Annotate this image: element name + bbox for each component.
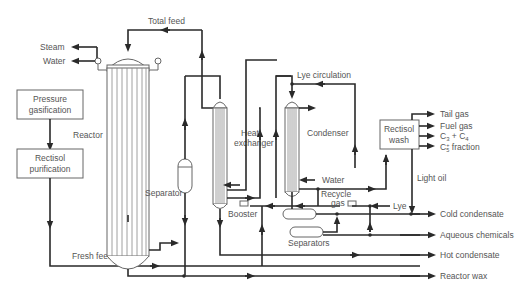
water-label: Water xyxy=(43,56,66,66)
heat-exchanger xyxy=(213,102,227,209)
svg-text:purification: purification xyxy=(29,164,70,174)
svg-text:gasification: gasification xyxy=(29,105,72,115)
aqueous-chemicals-label: Aqueous chemicals xyxy=(440,230,514,240)
svg-text:exchanger: exchanger xyxy=(234,138,274,148)
separator-label: Separator xyxy=(145,188,182,198)
svg-text:Pressure: Pressure xyxy=(33,94,67,104)
svg-text:wash: wash xyxy=(388,135,409,145)
process-flow-diagram: Pressure gasification Rectisol purificat… xyxy=(0,0,524,293)
svg-text:Rectisol: Rectisol xyxy=(384,124,414,134)
svg-text:Rectisol: Rectisol xyxy=(35,153,65,163)
fuel-gas-label: Fuel gas xyxy=(440,121,473,131)
reactor-label: Reactor xyxy=(73,130,103,140)
c5-fraction-label: C+5 fraction xyxy=(440,142,480,153)
reactor xyxy=(95,58,161,269)
rectisol-purification-box: Rectisol purification xyxy=(17,149,83,178)
heat-exchanger-label: Heat xyxy=(241,128,260,138)
condenser xyxy=(285,102,299,197)
lye-label: Lye xyxy=(393,201,407,211)
hot-condensate-label: Hot condensate xyxy=(440,250,500,260)
booster-label: Booster xyxy=(228,209,257,219)
lye-circulation-label: Lye circulation xyxy=(297,70,351,80)
separators-label: Separators xyxy=(288,238,330,248)
cold-condensate-label: Cold condensate xyxy=(440,209,504,219)
condenser-label: Condenser xyxy=(307,128,349,138)
booster xyxy=(240,201,248,206)
reactor-wax-label: Reactor wax xyxy=(440,271,488,281)
total-feed-label: Total feed xyxy=(148,16,185,26)
steam-label: Steam xyxy=(40,42,65,52)
tail-gas-label: Tail gas xyxy=(440,109,469,119)
pressure-gasification-box: Pressure gasification xyxy=(17,90,83,119)
rectisol-wash-box: Rectisol wash xyxy=(380,120,419,149)
condenser-water-label: Water xyxy=(322,175,345,185)
svg-text:gas: gas xyxy=(331,198,345,208)
c3-c4-label: C3 + C4 xyxy=(440,131,469,142)
light-oil-label: Light oil xyxy=(417,173,446,183)
